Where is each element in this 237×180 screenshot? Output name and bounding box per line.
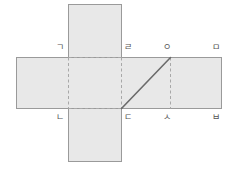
face-top-flap: [69, 5, 122, 58]
vertex-label-siot: ㅅ: [163, 113, 171, 122]
vertex-label-giyeok: ㄱ: [56, 43, 64, 52]
vertex-label-digeut: ㄷ: [124, 113, 132, 122]
face-horizontal-band: [17, 58, 222, 109]
vertex-label-ieung: ㅇ: [163, 43, 171, 52]
vertex-label-bieup: ㅂ: [212, 113, 220, 122]
face-bottom-flap: [69, 109, 122, 162]
vertex-label-mieum: ㅁ: [212, 43, 220, 52]
vertex-label-rieul: ㄹ: [124, 43, 132, 52]
vertex-label-nieun: ㄴ: [56, 113, 64, 122]
net-diagram-svg: [0, 0, 237, 180]
cube-net-figure: ㄱ ㄹ ㅇ ㅁ ㄴ ㄷ ㅅ ㅂ: [0, 0, 237, 180]
